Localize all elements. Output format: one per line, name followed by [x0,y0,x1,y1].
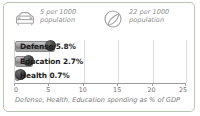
infographic-card: 5 per 1000 population 22 per 1000 popula… [3,2,195,112]
gridline-10 [84,40,85,83]
car-icon [13,9,37,30]
stat-telephone-line2: population [129,16,169,24]
x-ticklabel-15: 15 [113,86,121,94]
bar-health-label: Health 0.7% [20,70,69,81]
stats-row: 5 per 1000 population 22 per 1000 popula… [4,6,194,37]
x-ticklabel-5: 5 [46,86,50,94]
bar-chart: Defense 5.8% Education 2.7% Health 0.7% [14,40,186,84]
gridline-20 [153,40,154,83]
stat-telephone-text: 22 per 1000 population [129,8,169,24]
stat-telephone-line1: 22 per 1000 [129,8,169,16]
gridline-25 [186,40,187,83]
telephone-dial-icon [102,9,126,30]
stat-car-line2: population [40,16,76,24]
x-ticklabel-10: 10 [79,86,87,94]
bar-education-label: Education 2.7% [20,56,83,67]
x-ticklabel-20: 20 [148,86,156,94]
bar-defense-label: Defense 5.8% [20,41,76,52]
gridline-15 [118,40,119,83]
stat-car-text: 5 per 1000 population [40,8,76,24]
x-ticklabel-25: 25 [179,86,187,94]
x-axis: 0 5 10 15 20 25 [14,84,186,93]
stat-car-line1: 5 per 1000 [40,8,76,16]
chart-caption: Defense, Health, Education spending as %… [15,96,180,104]
x-ticklabel-0: 0 [14,86,18,94]
